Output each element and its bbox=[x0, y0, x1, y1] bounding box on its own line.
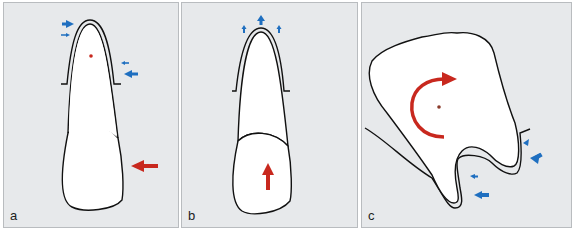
tooth-diagram-c bbox=[362, 3, 573, 229]
force-arrow-left-icon bbox=[131, 160, 158, 172]
pressure-arrows-up-icon bbox=[242, 15, 282, 33]
panel-c: c bbox=[361, 2, 572, 228]
center-of-rotation-dot bbox=[437, 105, 441, 109]
panel-b: b bbox=[181, 2, 358, 228]
center-of-resistance-dot bbox=[89, 54, 93, 58]
tooth-diagram-a bbox=[4, 3, 180, 229]
panel-label-a: a bbox=[10, 208, 17, 223]
panel-label-c: c bbox=[368, 208, 375, 223]
panel-label-b: b bbox=[188, 208, 195, 223]
panel-a: a bbox=[3, 2, 179, 228]
tooth-diagram-b bbox=[182, 3, 359, 229]
